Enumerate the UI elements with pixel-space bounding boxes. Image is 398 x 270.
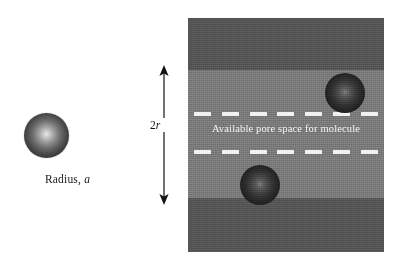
pore-sphere-upper-icon: [325, 73, 365, 113]
pore-diameter-symbol: r: [156, 119, 160, 131]
pore-diameter-label: 2r: [136, 118, 174, 132]
dash-segment: [222, 112, 239, 116]
molecule-radius-label-text: Radius,: [45, 173, 84, 185]
dash-segment: [194, 112, 211, 116]
pore-space-label: Available pore space for molecule: [188, 123, 384, 134]
sphere-molecule-icon: [24, 113, 69, 158]
dash-segment: [277, 112, 294, 116]
dash-segment: [305, 150, 322, 154]
dash-segment: [222, 150, 239, 154]
dash-segment: [194, 150, 211, 154]
pore-wall-bottom: [188, 198, 384, 252]
dash-segment: [361, 112, 378, 116]
molecule-radius-label: Radius, a: [0, 173, 135, 185]
dash-segment: [305, 112, 322, 116]
lower-accessible-boundary-dashed-line: [194, 150, 378, 154]
dash-segment: [250, 112, 267, 116]
pore-diameter-dimension: 2r: [140, 60, 188, 210]
pore-sphere-lower-icon: [240, 165, 280, 205]
pore-wall-top: [188, 18, 384, 70]
upper-accessible-boundary-dashed-line: [194, 112, 378, 116]
dash-segment: [361, 150, 378, 154]
molecule-panel: Radius, a: [0, 0, 135, 270]
pore-slab-diagram: Available pore space for molecule: [188, 18, 384, 252]
dash-segment: [333, 150, 350, 154]
dash-segment: [250, 150, 267, 154]
double-headed-arrow-vertical-icon: [150, 60, 178, 210]
molecule-radius-symbol: a: [84, 173, 90, 185]
dash-segment: [277, 150, 294, 154]
figure-canvas: Radius, a 2r Available pore space for mo…: [0, 0, 398, 270]
